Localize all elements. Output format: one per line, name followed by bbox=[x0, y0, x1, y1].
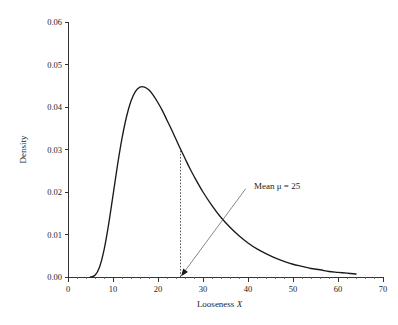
y-axis-tick-label: 0.04 bbox=[47, 102, 63, 112]
mean-annotation-label: Mean μ = 25 bbox=[254, 181, 301, 191]
density-chart-figure: 0.000.010.020.030.040.050.06 01020304050… bbox=[0, 0, 398, 325]
x-axis-tick-label: 30 bbox=[199, 284, 208, 294]
y-axis-tick-label: 0.06 bbox=[47, 17, 62, 27]
x-axis-tick-label: 0 bbox=[66, 284, 70, 294]
y-axis-tick-label: 0.00 bbox=[47, 272, 62, 282]
y-axis-tick-label: 0.01 bbox=[47, 230, 62, 240]
y-axis-tick-label: 0.02 bbox=[47, 187, 62, 197]
x-axis-title-text: Looseness bbox=[197, 299, 237, 309]
x-axis-title: Looseness X bbox=[197, 299, 243, 309]
chart-canvas: 0.000.010.020.030.040.050.06 01020304050… bbox=[0, 0, 398, 325]
x-axis-tick-label: 50 bbox=[289, 284, 298, 294]
x-axis-title-variable: X bbox=[236, 299, 243, 309]
x-axis-tick-label: 40 bbox=[244, 284, 253, 294]
mean-annotation-text: Mean μ = 25 bbox=[254, 181, 301, 191]
x-axis-tick-label: 10 bbox=[109, 284, 118, 294]
y-axis-tick-label: 0.05 bbox=[47, 60, 62, 70]
x-axis-tick-label: 60 bbox=[334, 284, 343, 294]
y-axis-title: Density bbox=[18, 135, 28, 163]
x-axis-tick-label: 70 bbox=[379, 284, 388, 294]
y-axis-tick-label: 0.03 bbox=[47, 145, 62, 155]
x-axis-tick-label: 20 bbox=[154, 284, 163, 294]
